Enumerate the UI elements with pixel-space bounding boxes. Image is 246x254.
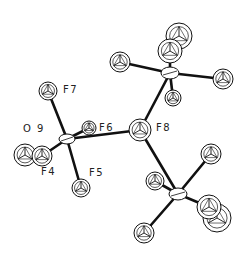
atom-p2 bbox=[161, 67, 179, 79]
atom-p2-left bbox=[110, 52, 130, 72]
atom-p2-bottom bbox=[165, 90, 181, 106]
label-f8: F8 bbox=[156, 123, 171, 133]
label-f6: F6 bbox=[99, 123, 114, 133]
label-o9: O 9 bbox=[23, 124, 45, 134]
atom-p2-top2 bbox=[158, 39, 182, 63]
atom-f5 bbox=[72, 179, 90, 197]
atom-f8 bbox=[129, 119, 151, 141]
atom-p3-l bbox=[146, 172, 164, 190]
atom-p2-right bbox=[213, 69, 233, 89]
atom-p3-ur bbox=[201, 144, 221, 164]
atom-f4 bbox=[32, 146, 52, 166]
label-f5: F5 bbox=[89, 168, 104, 178]
atom-f7 bbox=[39, 82, 57, 100]
label-f7: F7 bbox=[63, 85, 78, 95]
label-f4: F4 bbox=[41, 167, 56, 177]
atom-p3-r1 bbox=[197, 195, 221, 219]
atom-p3 bbox=[169, 188, 187, 200]
atom-p1 bbox=[59, 134, 75, 144]
atom-f6 bbox=[82, 121, 96, 135]
atom-p3-ll bbox=[134, 223, 154, 243]
